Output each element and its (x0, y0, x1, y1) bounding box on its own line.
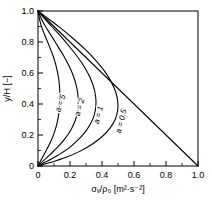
x-axis-tick-label: 1.0 (192, 170, 205, 180)
curve-a-5 (38, 11, 60, 166)
y-axis-tick-label: 0.4 (21, 99, 34, 109)
chart-figure: 00.20.40.60.81.000.20.40.60.81.0σᵥ/ρ₀ [m… (0, 0, 212, 201)
curve-a-1 (38, 11, 96, 166)
y-axis-label: y/H [−] (2, 75, 12, 101)
x-axis-tick-label: 0.6 (128, 170, 141, 180)
curve-label: a = 1 (92, 105, 105, 125)
curve-label: a = 0.5 (114, 108, 129, 135)
y-axis-tick-label: 0.2 (21, 130, 34, 140)
y-axis-tick-label: 0 (29, 161, 34, 171)
chart-svg: 00.20.40.60.81.000.20.40.60.81.0σᵥ/ρ₀ [m… (0, 0, 212, 201)
x-axis-tick-label: 0 (35, 170, 40, 180)
y-axis-tick-label: 0.6 (21, 68, 34, 78)
y-axis-tick-label: 1.0 (21, 6, 34, 16)
y-axis-tick-label: 0.8 (21, 37, 34, 47)
x-axis-tick-label: 0.2 (64, 170, 77, 180)
curve-label: a = 2 (73, 97, 87, 117)
x-axis-tick-label: 0.4 (96, 170, 109, 180)
x-axis-tick-label: 0.8 (160, 170, 173, 180)
curve-label: a = 5 (53, 93, 67, 113)
x-axis-label: σᵥ/ρ₀ [m²·s⁻²] (91, 184, 144, 194)
